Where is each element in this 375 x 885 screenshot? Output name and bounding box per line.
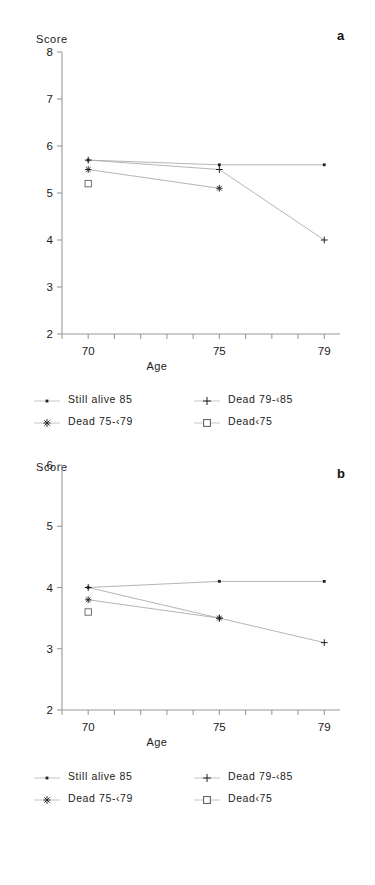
legend-a: Still alive 85 Dead 79-‹85 Dead 75-‹79 D…	[0, 388, 375, 432]
plot-area-a: 2345678707579	[0, 0, 375, 360]
legend-item-dead-lt-75: Dead‹75	[192, 410, 357, 432]
asterisk-icon	[32, 415, 62, 427]
svg-text:79: 79	[318, 721, 331, 733]
legend-label: Dead‹75	[228, 792, 272, 804]
legend-label: Dead 75-‹79	[68, 415, 133, 427]
svg-text:4: 4	[47, 234, 54, 246]
legend-item-dead-lt-75: Dead‹75	[192, 787, 357, 809]
plus-icon	[192, 393, 222, 405]
svg-text:79: 79	[318, 345, 331, 357]
plus-icon	[192, 770, 222, 782]
svg-text:6: 6	[47, 459, 53, 471]
svg-text:3: 3	[47, 643, 53, 655]
legend-item-still-alive-85: Still alive 85	[32, 388, 192, 410]
svg-text:75: 75	[213, 345, 226, 357]
svg-text:6: 6	[47, 140, 53, 152]
legend-item-dead-79-85: Dead 79-‹85	[192, 388, 357, 410]
plot-area-b: 23456707579	[0, 440, 375, 740]
svg-text:7: 7	[47, 93, 53, 105]
square-icon	[192, 415, 222, 427]
dot-icon	[32, 770, 62, 782]
square-icon	[192, 792, 222, 804]
svg-text:5: 5	[47, 520, 53, 532]
legend-item-dead-79-85: Dead 79-‹85	[192, 765, 357, 787]
legend-item-still-alive-85: Still alive 85	[32, 765, 192, 787]
legend-b: Still alive 85 Dead 79-‹85 Dead 75-‹79 D…	[0, 765, 375, 809]
svg-text:8: 8	[47, 46, 53, 58]
legend-label: Dead 75-‹79	[68, 792, 133, 804]
legend-item-dead-75-79: Dead 75-‹79	[32, 410, 192, 432]
legend-label: Dead 79-‹85	[228, 393, 293, 405]
dot-icon	[32, 393, 62, 405]
chart-panel-a: a Score 2345678707579 Age Still alive 85…	[0, 0, 375, 440]
x-axis-title-a: Age	[122, 360, 192, 372]
legend-label: Still alive 85	[68, 770, 132, 782]
legend-label: Still alive 85	[68, 393, 132, 405]
legend-item-dead-75-79: Dead 75-‹79	[32, 787, 192, 809]
legend-label: Dead‹75	[228, 415, 272, 427]
svg-text:70: 70	[82, 345, 95, 357]
svg-text:2: 2	[47, 704, 53, 716]
svg-text:2: 2	[47, 328, 53, 340]
svg-text:4: 4	[47, 582, 54, 594]
svg-text:70: 70	[82, 721, 95, 733]
legend-label: Dead 79-‹85	[228, 770, 293, 782]
svg-text:3: 3	[47, 281, 53, 293]
svg-text:5: 5	[47, 187, 53, 199]
svg-text:75: 75	[213, 721, 226, 733]
x-axis-title-b: Age	[122, 736, 192, 748]
chart-panel-b: b Score 23456707579 Age Still alive 85 D…	[0, 440, 375, 885]
asterisk-icon	[32, 792, 62, 804]
